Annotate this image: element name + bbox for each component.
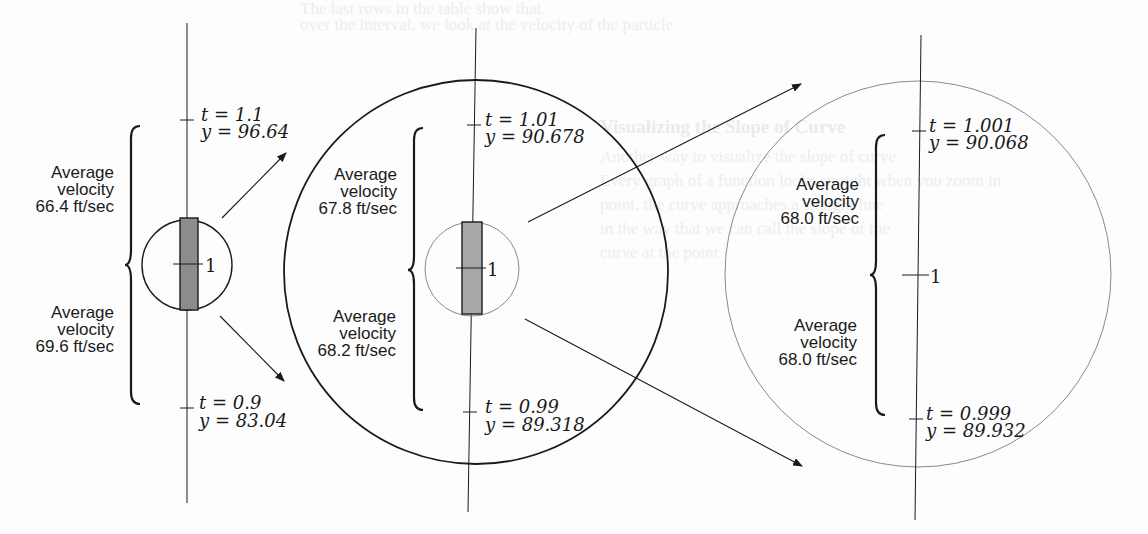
lower-avg-velocity: 68.0 ft/sec (779, 350, 858, 369)
brace-icon (125, 126, 140, 404)
upper-y-label: y = 96.64 (200, 121, 289, 142)
zoom-arrow-lower (220, 316, 284, 381)
ghost-heading: Visualizing the Slope of Curve (600, 116, 845, 137)
panel-middle: 1 t = 1.01 y = 90.678 t = 0.99 y = 89.31… (284, 28, 802, 512)
lower-y-label: y = 89.318 (484, 414, 585, 435)
upper-avg-velocity: 66.4 ft/sec (36, 197, 115, 216)
lower-avg-velocity: 68.2 ft/sec (318, 341, 397, 360)
upper-avg-velocity: 67.8 ft/sec (319, 199, 398, 218)
svg-text:curve at the point: curve at the point (600, 243, 719, 262)
diagram-page: The last rows in the table show that ove… (0, 0, 1148, 534)
upper-y-label: y = 90.068 (928, 132, 1029, 153)
label-one: 1 (487, 259, 498, 280)
time-axis (915, 35, 921, 520)
svg-text:over the interval, we look at: over the interval, we look at the veloci… (300, 15, 673, 34)
panel-left: 1 t = 1.1 y = 96.64 t = 0.9 y = 83.04 Av… (36, 23, 290, 503)
lower-y-label: y = 83.04 (198, 410, 287, 431)
zoom-arrow-upper (222, 153, 286, 218)
zoom-arrow-lower (525, 319, 802, 466)
upper-avg-velocity: 68.0 ft/sec (781, 209, 860, 228)
upper-y-label: y = 90.678 (484, 126, 585, 147)
lower-avg-velocity: 69.6 ft/sec (36, 337, 115, 356)
panel-right: 1 t = 1.001 y = 90.068 t = 0.999 y = 89.… (725, 35, 1111, 520)
label-one: 1 (930, 266, 941, 287)
label-one: 1 (205, 255, 216, 276)
lower-y-label: y = 89.932 (925, 420, 1026, 441)
brace-icon (408, 128, 423, 410)
zoom-diagram: The last rows in the table show that ove… (0, 0, 1148, 534)
bleed-through-text: The last rows in the table show that ove… (300, 0, 1002, 262)
